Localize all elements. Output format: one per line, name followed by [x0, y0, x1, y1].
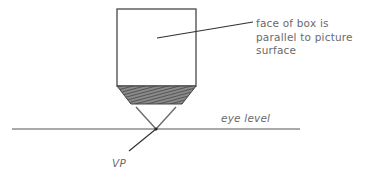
vp-pointer-line	[129, 129, 156, 151]
annotation-line-1: face of box is	[256, 17, 353, 31]
eye-level-label: eye level	[221, 112, 270, 126]
annotation-line-3: surface	[256, 44, 353, 58]
vanishing-point-label: VP	[112, 157, 126, 171]
right-convergence-line	[156, 107, 176, 129]
annotation-text: face of box is parallel to picture surfa…	[256, 17, 353, 58]
box-front-face	[117, 9, 196, 86]
left-convergence-line	[136, 107, 156, 129]
box-bottom-shaded	[117, 86, 196, 104]
annotation-line-2: parallel to picture	[256, 31, 353, 45]
